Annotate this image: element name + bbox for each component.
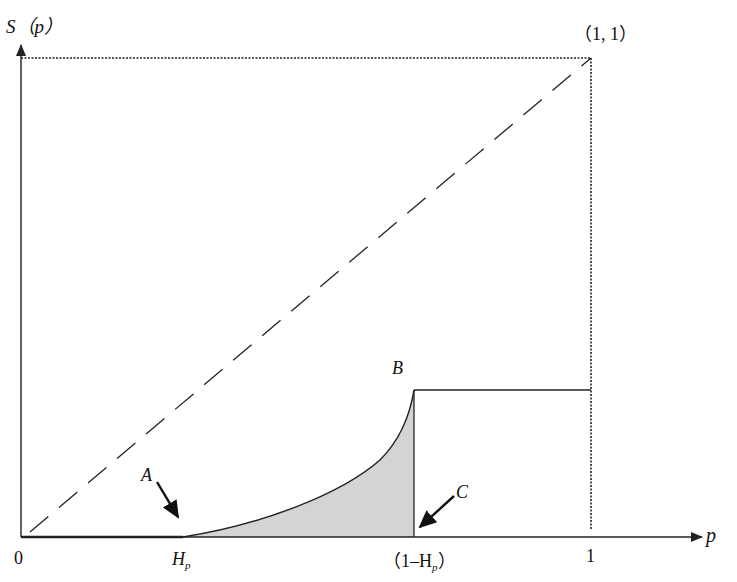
tick-one: 1 <box>586 547 595 565</box>
x-axis-label: p <box>706 525 716 545</box>
y-axis-label: S（p） <box>6 17 63 36</box>
tick-hp-main: H <box>172 549 185 569</box>
tick-one-minus-hp-suffix: ） <box>438 551 456 571</box>
corner-label: （1, 1） <box>574 25 637 43</box>
point-c-label: C <box>456 483 468 501</box>
point-a-label: A <box>141 466 152 484</box>
tick-one-minus-hp: （1–Hp） <box>383 552 456 573</box>
origin-label: 0 <box>14 549 23 567</box>
arrow-a-icon <box>157 482 178 517</box>
tick-hp-sub: p <box>185 559 191 571</box>
point-b-label: B <box>392 359 403 377</box>
tick-hp: Hp <box>172 550 191 571</box>
diagonal-line <box>30 58 591 532</box>
arrow-c-icon <box>420 496 454 527</box>
shaded-region <box>183 390 414 537</box>
diagram-canvas <box>0 0 737 582</box>
tick-one-minus-hp-prefix: （1–H <box>383 551 432 571</box>
y-axis-label-text: S（p） <box>6 16 63 37</box>
